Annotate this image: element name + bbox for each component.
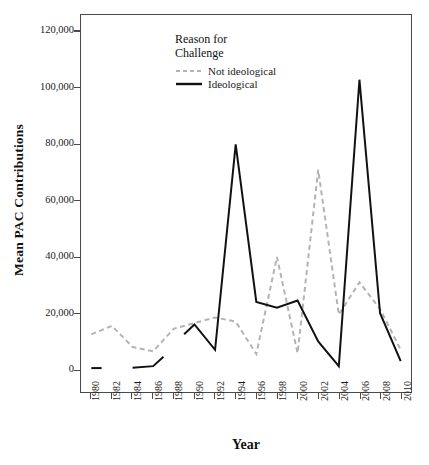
x-tick-label: 1998 [277, 381, 288, 401]
x-tick-label: 2002 [319, 381, 330, 401]
x-tick-label: 1980 [90, 381, 101, 401]
x-tick-label: 2010 [402, 381, 413, 401]
x-tick-label: 2006 [360, 381, 371, 401]
x-tick-label: 1984 [132, 381, 143, 401]
y-tick-label: 60,000 [4, 194, 80, 208]
legend-item-not-ideological: Not ideological [175, 64, 325, 77]
legend-swatch-dashed-icon [175, 65, 203, 77]
series-line-ideological [184, 80, 401, 366]
x-tick-label: 1988 [173, 381, 184, 401]
x-tick-label: 1986 [153, 381, 164, 401]
plot-area: Reason for Challenge Not ideological Ide… [80, 14, 412, 393]
x-axis-title: Year [80, 437, 412, 453]
x-tick-label: 1990 [194, 381, 205, 401]
legend-title-line-1: Reason for [175, 33, 325, 47]
x-tick-label: 1994 [236, 381, 247, 401]
legend-item-ideological: Ideological [175, 77, 325, 90]
x-tick-label: 2008 [381, 381, 392, 401]
x-tick-label: 2000 [298, 381, 309, 401]
legend-swatch-solid-icon [175, 78, 203, 90]
y-tick-label: 80,000 [4, 137, 80, 151]
y-tick-label: 0 [4, 363, 80, 377]
chart-figure: Mean PAC Contributions 020,00040,00060,0… [0, 0, 429, 465]
legend-label-ideological: Ideological [208, 78, 257, 90]
series-line-not-ideological [91, 170, 400, 354]
x-tick-label: 2004 [339, 381, 350, 401]
legend-title-line-2: Challenge [175, 47, 325, 61]
y-tick-label: 120,000 [4, 24, 80, 38]
legend: Reason for Challenge Not ideological Ide… [175, 33, 325, 90]
legend-title: Reason for Challenge [175, 33, 325, 60]
y-tick-label: 100,000 [4, 81, 80, 95]
legend-label-not-ideological: Not ideological [208, 65, 276, 77]
x-tick-label: 1996 [256, 381, 267, 401]
y-axis-ticks: 020,00040,00060,00080,000100,000120,000 [0, 14, 80, 393]
x-axis-ticks: 1980198219841986198819901992199419961998… [80, 393, 412, 439]
series-line-ideological [133, 357, 164, 368]
y-tick-label: 20,000 [4, 307, 80, 321]
series-layer [91, 80, 400, 368]
x-tick-label: 1992 [215, 381, 226, 401]
x-tick-label: 1982 [111, 381, 122, 401]
y-tick-label: 40,000 [4, 250, 80, 264]
